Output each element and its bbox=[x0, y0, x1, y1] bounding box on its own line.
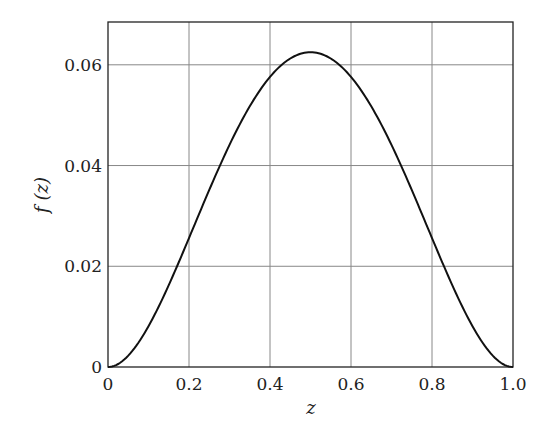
x-tick-label: 0.8 bbox=[418, 374, 445, 394]
x-tick-labels: 00.20.40.60.81.0 bbox=[103, 374, 527, 394]
y-tick-label: 0.02 bbox=[64, 256, 102, 276]
data-line bbox=[108, 52, 513, 367]
y-tick-label: 0.04 bbox=[64, 156, 102, 176]
y-tick-label: 0.06 bbox=[64, 55, 102, 75]
x-tick-label: 0 bbox=[103, 374, 114, 394]
y-tick-labels: 00.020.040.06 bbox=[64, 55, 102, 377]
x-tick-label: 0.6 bbox=[337, 374, 364, 394]
chart: 00.20.40.60.81.0 00.020.040.06 z f (z) bbox=[0, 0, 554, 429]
y-tick-label: 0 bbox=[91, 357, 102, 377]
gridlines bbox=[108, 22, 513, 367]
x-tick-label: 0.2 bbox=[175, 374, 202, 394]
x-axis-label: z bbox=[305, 397, 316, 418]
plot-frame bbox=[108, 22, 513, 367]
x-tick-label: 1.0 bbox=[499, 374, 526, 394]
y-axis-label: f (z) bbox=[31, 177, 52, 215]
x-tick-label: 0.4 bbox=[256, 374, 283, 394]
